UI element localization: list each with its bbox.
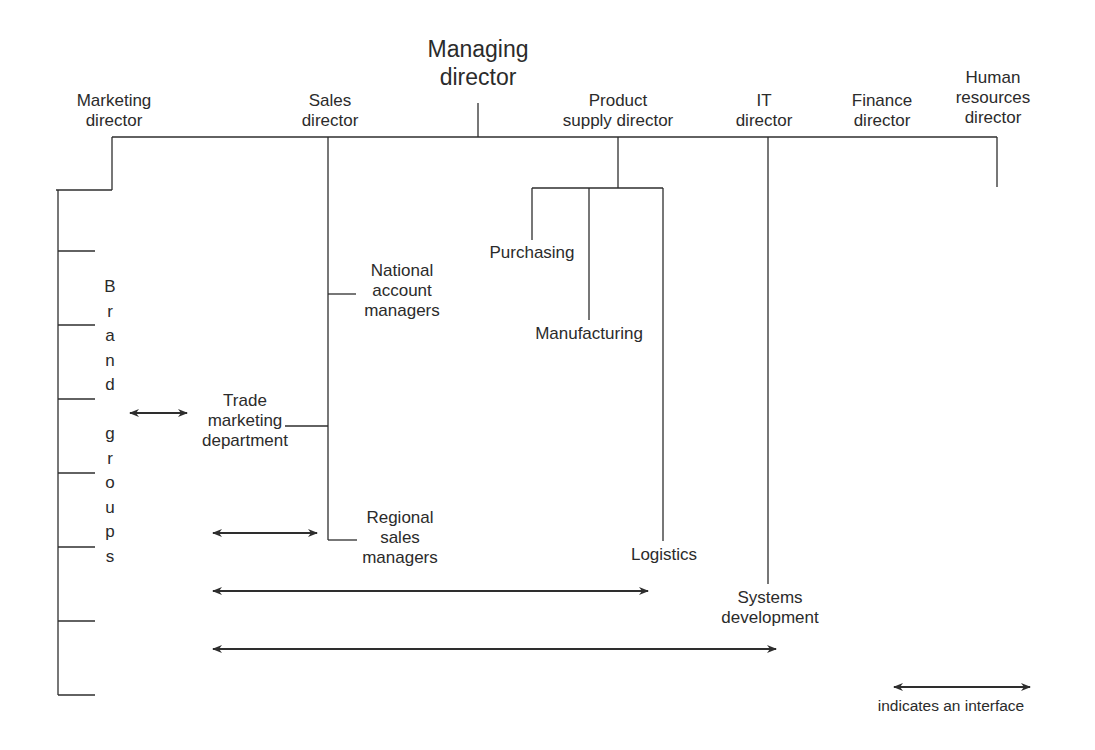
trade-marketing-label: Trade marketing department	[190, 391, 300, 451]
label-line: National	[352, 261, 452, 281]
letter: p	[100, 520, 120, 545]
label-line: director	[938, 108, 1048, 128]
label-line: Logistics	[624, 545, 704, 565]
label-line: Managing	[408, 36, 548, 64]
regional-sales-managers-label: Regional sales managers	[350, 508, 450, 568]
brand-groups-label: B r a n d g r o u p s	[100, 275, 120, 569]
letter: r	[100, 300, 120, 325]
label-line: director	[270, 111, 390, 131]
letter: B	[100, 275, 120, 300]
label-line: Regional	[350, 508, 450, 528]
label-line: Manufacturing	[527, 324, 651, 344]
finance-director-label: Finance director	[832, 91, 932, 131]
label-line: Human	[938, 68, 1048, 88]
label-line: supply director	[548, 111, 688, 131]
label-line: Sales	[270, 91, 390, 111]
org-chart: Managing director Marketing director Sal…	[0, 0, 1095, 750]
logistics-label: Logistics	[624, 545, 704, 565]
label-line: account	[352, 281, 452, 301]
label-line: development	[712, 608, 828, 628]
hr-director-label: Human resources director	[938, 68, 1048, 128]
letter: a	[100, 324, 120, 349]
it-director-label: IT director	[724, 91, 804, 131]
managing-director-label: Managing director	[408, 36, 548, 91]
label-line: Finance	[832, 91, 932, 111]
letter: s	[100, 545, 120, 570]
letter: n	[100, 349, 120, 374]
letter: r	[100, 447, 120, 472]
label-line: managers	[352, 301, 452, 321]
letter: g	[100, 422, 120, 447]
legend-text: indicates an interface	[876, 697, 1026, 715]
product-supply-director-label: Product supply director	[548, 91, 688, 131]
label-line: Systems	[712, 588, 828, 608]
marketing-director-label: Marketing director	[54, 91, 174, 131]
label-line: director	[54, 111, 174, 131]
label-line: Trade	[190, 391, 300, 411]
label-line: director	[408, 64, 548, 92]
systems-development-label: Systems development	[712, 588, 828, 628]
purchasing-label: Purchasing	[482, 243, 582, 263]
sales-director-label: Sales director	[270, 91, 390, 131]
national-account-managers-label: National account managers	[352, 261, 452, 321]
letter: d	[100, 373, 120, 398]
label-line: Product	[548, 91, 688, 111]
letter: u	[100, 496, 120, 521]
label-line: managers	[350, 548, 450, 568]
label-line: director	[832, 111, 932, 131]
label-line: department	[190, 431, 300, 451]
label-line: Marketing	[54, 91, 174, 111]
letter-gap	[100, 398, 120, 423]
manufacturing-label: Manufacturing	[527, 324, 651, 344]
label-line: Purchasing	[482, 243, 582, 263]
label-line: marketing	[190, 411, 300, 431]
letter: o	[100, 471, 120, 496]
label-line: resources	[938, 88, 1048, 108]
label-line: IT	[724, 91, 804, 111]
label-line: sales	[350, 528, 450, 548]
legend-label: indicates an interface	[876, 697, 1026, 715]
label-line: director	[724, 111, 804, 131]
